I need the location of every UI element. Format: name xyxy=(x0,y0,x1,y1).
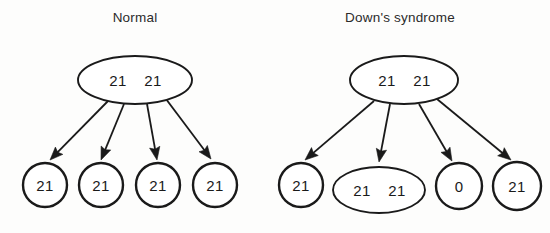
child-cell-normal-0: 21 xyxy=(23,163,67,207)
parent-chromosome-label-right-normal: 21 xyxy=(144,72,162,89)
downs-syndrome-arrow-down-icon-2 xyxy=(441,147,452,161)
child-cell-normal-2: 21 xyxy=(136,163,180,207)
downs-syndrome-arrow-line-3 xyxy=(437,99,505,155)
parent-cell-downs-syndrome: 2121 xyxy=(350,56,458,104)
panel-title-normal: Normal xyxy=(113,10,158,25)
parent-chromosome-label-right-downs-syndrome: 21 xyxy=(413,72,431,89)
downs-syndrome-arrow-line-1 xyxy=(380,104,390,155)
panel-downs-syndrome: Down's syndrome2121212121021 xyxy=(279,10,541,213)
child-chromosome-label-downs-syndrome-3: 21 xyxy=(508,178,526,195)
arrow-group-normal xyxy=(50,99,211,160)
normal-arrow-line-3 xyxy=(166,99,207,153)
panel-title-downs-syndrome: Down's syndrome xyxy=(345,10,455,25)
child-chromosome-label-normal-3: 21 xyxy=(206,177,224,194)
child-cell-downs-syndrome-2: 0 xyxy=(436,163,482,209)
downs-syndrome-arrow-line-2 xyxy=(419,104,448,155)
normal-arrow-line-2 xyxy=(147,104,156,153)
normal-arrow-down-icon-3 xyxy=(199,145,211,159)
child-cell-shape-downs-syndrome-1 xyxy=(333,167,425,213)
parent-cell-normal: 2121 xyxy=(78,56,192,104)
normal-arrow-line-0 xyxy=(55,101,108,155)
child-chromosome-label-downs-syndrome-1-1: 21 xyxy=(388,182,406,199)
child-chromosome-label-downs-syndrome-1-0: 21 xyxy=(353,182,371,199)
arrow-group-downs-syndrome xyxy=(305,99,511,162)
child-chromosome-label-normal-2: 21 xyxy=(149,177,167,194)
chromosome-segregation-diagram: Normal212121212121Down's syndrome2121212… xyxy=(0,0,550,233)
diagram-canvas: Normal212121212121Down's syndrome2121212… xyxy=(0,0,550,233)
normal-arrow-line-1 xyxy=(104,104,124,153)
child-cell-normal-3: 21 xyxy=(193,163,237,207)
child-chromosome-label-normal-1: 21 xyxy=(92,177,110,194)
child-cell-downs-syndrome-3: 21 xyxy=(493,162,541,210)
child-cell-normal-1: 21 xyxy=(79,163,123,207)
child-chromosome-label-downs-syndrome-0: 21 xyxy=(292,177,310,194)
parent-cell-shape-downs-syndrome xyxy=(350,56,458,104)
child-chromosome-label-normal-0: 21 xyxy=(36,177,54,194)
panel-normal: Normal212121212121 xyxy=(23,10,237,207)
child-chromosome-label-downs-syndrome-2: 0 xyxy=(455,178,464,195)
child-cell-downs-syndrome-0: 21 xyxy=(279,163,323,207)
downs-syndrome-arrow-line-0 xyxy=(310,101,374,155)
parent-chromosome-label-left-downs-syndrome: 21 xyxy=(378,72,396,89)
child-cell-downs-syndrome-1: 2121 xyxy=(333,167,425,213)
parent-cell-shape-normal xyxy=(78,56,192,104)
parent-chromosome-label-left-normal: 21 xyxy=(109,72,127,89)
